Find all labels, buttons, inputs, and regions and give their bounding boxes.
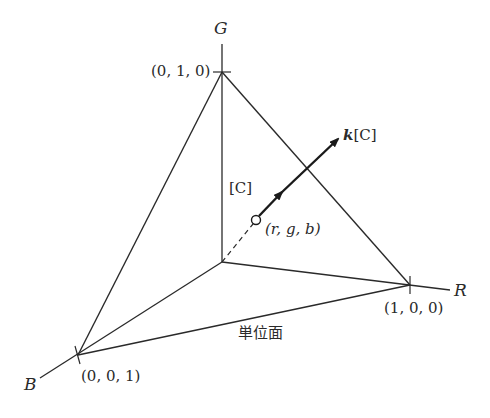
vector-dashed — [222, 224, 253, 262]
point-rgb-label: (r, g, b) — [265, 222, 321, 237]
point-rgb-marker — [252, 216, 261, 225]
b-axis-label: B — [24, 376, 37, 393]
rgb-unit-plane-diagram: G R B (0, 1, 0) (1, 0, 0) (0, 0, 1) (r, … — [0, 0, 490, 418]
unit-color-label: [C] — [229, 181, 252, 196]
g-axis-label: G — [214, 20, 228, 37]
scale-factor-k: k — [343, 126, 353, 144]
vertex-b-label: (0, 0, 1) — [81, 369, 140, 384]
scaled-color-bracket: [C] — [353, 126, 376, 144]
plane-edge-gb — [78, 72, 222, 355]
b-axis — [40, 262, 222, 378]
r-axis-label: R — [454, 282, 467, 299]
unit-plane-label: 単位面 — [238, 326, 283, 341]
vertex-r-label: (1, 0, 0) — [384, 301, 443, 316]
diagram-lines — [0, 0, 490, 418]
unit-vector — [259, 192, 282, 216]
r-axis — [222, 262, 450, 290]
plane-edge-rb — [78, 285, 410, 355]
scaled-color-label: k[C] — [343, 128, 377, 143]
vertex-g-label: (0, 1, 0) — [151, 64, 210, 79]
